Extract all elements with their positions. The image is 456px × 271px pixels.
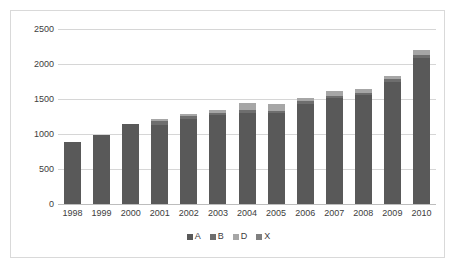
- bar-group[interactable]: [268, 104, 285, 204]
- x-tick-label: 2002: [174, 207, 203, 220]
- x-tick-label: 1998: [58, 207, 87, 220]
- x-tick-label: 2000: [116, 207, 145, 220]
- x-tick-label: 2008: [349, 207, 378, 220]
- legend-swatch-icon: [256, 234, 262, 240]
- bar-group[interactable]: [326, 91, 343, 204]
- bar-group[interactable]: [64, 142, 81, 204]
- y-tick-label: 2000: [10, 60, 54, 69]
- legend-entry[interactable]: X: [256, 232, 270, 241]
- x-tick-label: 2006: [291, 207, 320, 220]
- bar-group[interactable]: [180, 114, 197, 204]
- chart-frame: 05001000150020002500 1998199920002001200…: [10, 10, 445, 258]
- bar-segment[interactable]: [151, 125, 168, 204]
- bar-group[interactable]: [209, 110, 226, 204]
- bar-group[interactable]: [151, 119, 168, 204]
- y-axis: 05001000150020002500: [11, 29, 54, 204]
- plot-area: [58, 29, 436, 204]
- chart-legend: ABDX: [11, 232, 446, 241]
- legend-swatch-icon: [187, 234, 193, 240]
- bar-segment[interactable]: [93, 135, 110, 204]
- x-tick-label: 2007: [320, 207, 349, 220]
- bar-segment[interactable]: [122, 124, 139, 204]
- bar-segment[interactable]: [180, 119, 197, 204]
- legend-label: D: [241, 232, 248, 241]
- bar-segment[interactable]: [355, 95, 372, 204]
- bar-segment[interactable]: [268, 113, 285, 204]
- bar-group[interactable]: [239, 103, 256, 204]
- x-tick-label: 2005: [262, 207, 291, 220]
- x-tick-label: 2009: [378, 207, 407, 220]
- legend-swatch-icon: [233, 234, 239, 240]
- bar-group[interactable]: [297, 98, 314, 204]
- bar-segment[interactable]: [326, 98, 343, 204]
- legend-entry[interactable]: D: [233, 232, 248, 241]
- bar-segment[interactable]: [64, 142, 81, 204]
- bar-segment[interactable]: [413, 58, 430, 204]
- y-tick-label: 500: [10, 165, 54, 174]
- x-axis: 1998199920002001200220032004200520062007…: [58, 207, 436, 221]
- bar-segment[interactable]: [209, 115, 226, 204]
- x-tick-label: 2010: [407, 207, 436, 220]
- bar-group[interactable]: [122, 124, 139, 204]
- y-tick-label: 2500: [10, 25, 54, 34]
- bar-group[interactable]: [384, 76, 401, 204]
- bar-segment[interactable]: [239, 113, 256, 204]
- x-tick-label: 2004: [232, 207, 261, 220]
- legend-label: X: [264, 232, 270, 241]
- y-tick-label: 1000: [10, 130, 54, 139]
- x-tick-label: 2003: [203, 207, 232, 220]
- legend-label: B: [218, 232, 224, 241]
- x-tick-label: 2001: [145, 207, 174, 220]
- bar-group[interactable]: [355, 89, 372, 204]
- bars-layer: [58, 29, 436, 204]
- bar-segment[interactable]: [384, 82, 401, 204]
- bar-group[interactable]: [413, 50, 430, 204]
- legend-entry[interactable]: A: [187, 232, 201, 241]
- y-tick-label: 0: [10, 200, 54, 209]
- y-tick-label: 1500: [10, 95, 54, 104]
- bar-group[interactable]: [93, 135, 110, 204]
- gridline: [58, 204, 436, 205]
- legend-entry[interactable]: B: [210, 232, 224, 241]
- x-tick-label: 1999: [87, 207, 116, 220]
- legend-label: A: [195, 232, 201, 241]
- bar-segment[interactable]: [297, 104, 314, 204]
- legend-swatch-icon: [210, 234, 216, 240]
